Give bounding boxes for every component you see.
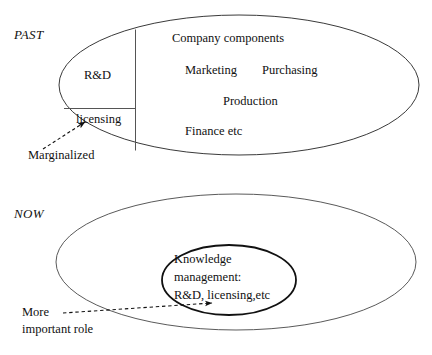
past-segment-label-rd: R&D bbox=[84, 68, 111, 83]
knowledge-management-line-3: R&D, licensing,etc bbox=[174, 287, 270, 304]
marginalized-callout-label: Marginalized bbox=[28, 148, 94, 163]
past-era-label: PAST bbox=[14, 27, 44, 42]
now-outer-ellipse bbox=[56, 194, 416, 330]
figure-canvas: PAST R&D licensing Company components Ma… bbox=[0, 0, 432, 355]
more-important-role-label-line2: important role bbox=[22, 322, 93, 337]
past-segment-label-licensing: licensing bbox=[76, 112, 121, 127]
company-component-purchasing: Purchasing bbox=[262, 63, 318, 78]
company-components-heading: Company components bbox=[172, 31, 284, 46]
knowledge-management-line-1: Knowledge bbox=[174, 251, 232, 268]
more-important-role-label-line1: More bbox=[22, 305, 49, 320]
company-component-finance: Finance etc bbox=[185, 124, 242, 139]
company-component-production: Production bbox=[223, 94, 278, 109]
now-panel-graphics bbox=[56, 194, 416, 330]
now-era-label: NOW bbox=[14, 206, 44, 221]
company-component-marketing: Marketing bbox=[185, 63, 237, 78]
knowledge-management-line-2: management: bbox=[174, 269, 241, 286]
